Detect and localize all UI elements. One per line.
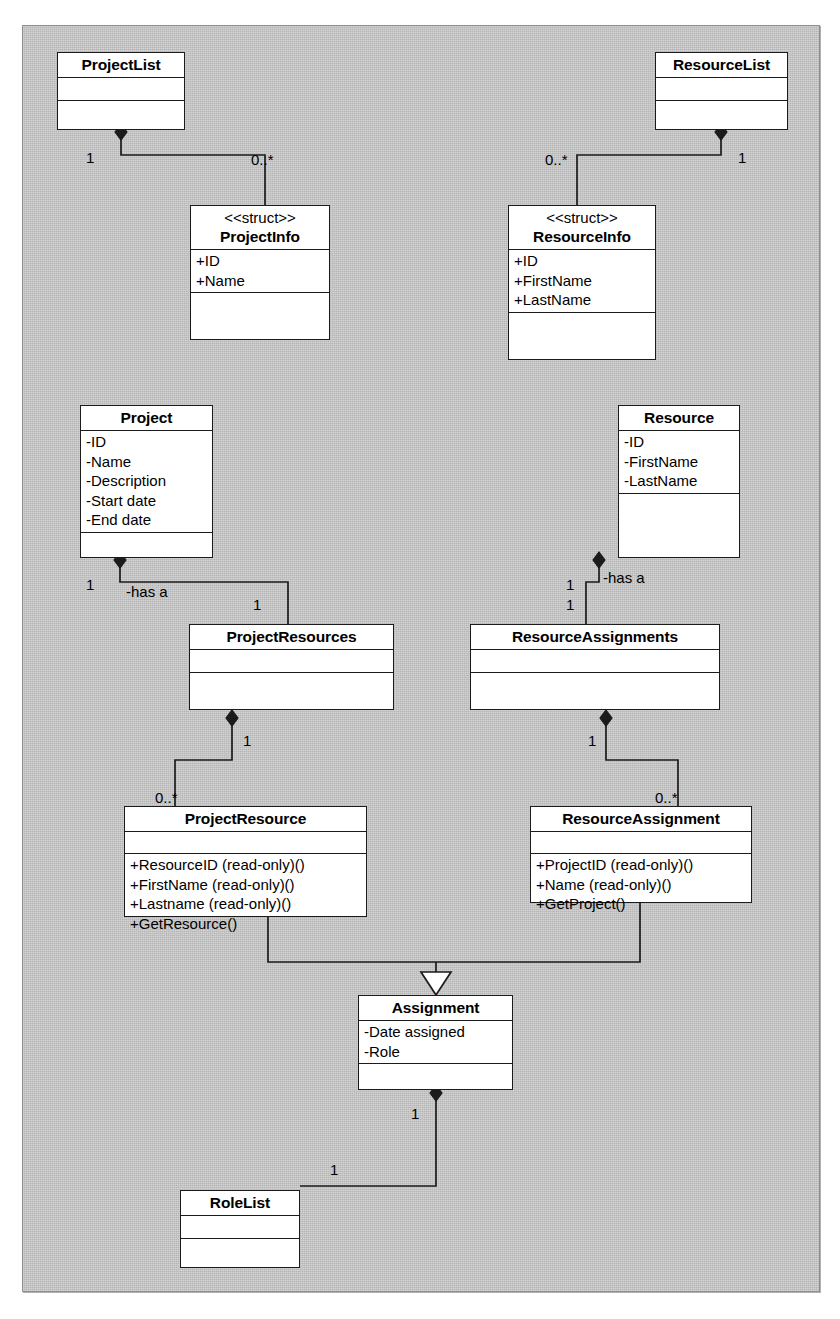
operation-row: +GetResource() [130, 914, 361, 934]
multiplicity-resource: 1 [566, 577, 574, 592]
multiplicity-assignment: 1 [411, 1106, 419, 1121]
multiplicity-projectresources-top: 1 [253, 597, 261, 612]
class-box-project-resource[interactable]: ProjectResource +ResourceID (read-only)(… [124, 806, 367, 917]
attribute-row: +Name [196, 271, 324, 291]
class-title-resource-assignment: ResourceAssignment [531, 807, 751, 832]
attribute-row: +ID [514, 251, 650, 271]
class-header-resource-info: <<struct>> ResourceInfo [509, 206, 655, 250]
class-attributes-resource: -ID -FirstName -LastName [619, 431, 739, 494]
multiplicity-projectresources-bot: 1 [243, 733, 251, 748]
class-attributes-resource-info: +ID +FirstName +LastName [509, 250, 655, 313]
class-attributes-resource-assignment [531, 832, 751, 854]
class-box-project-info[interactable]: <<struct>> ProjectInfo +ID +Name [190, 205, 330, 340]
class-operations-resource-info [509, 313, 655, 339]
class-box-assignment[interactable]: Assignment -Date assigned -Role [358, 995, 513, 1090]
class-title-resource-info: ResourceInfo [509, 227, 655, 249]
multiplicity-resourceassignments-bot: 1 [588, 733, 596, 748]
class-operations-project-list [58, 101, 184, 127]
class-attributes-project-info: +ID +Name [191, 250, 329, 293]
class-operations-resource-assignment: +ProjectID (read-only)() +Name (read-onl… [531, 854, 751, 916]
class-title-project-list: ProjectList [58, 53, 184, 78]
wire-projectlist-projectinfo [121, 130, 265, 205]
class-title-resource: Resource [619, 406, 739, 431]
class-operations-project-info [191, 293, 329, 319]
operation-row: +ProjectID (read-only)() [536, 855, 746, 875]
attribute-row: +FirstName [514, 271, 650, 291]
diamond-projectresources [226, 710, 238, 726]
wire-resourcelist-resourceinfo [577, 130, 721, 205]
uml-diagram-canvas: ProjectList ResourceList <<struct>> Proj… [0, 0, 840, 1319]
class-stereotype-resource-info: <<struct>> [509, 206, 655, 227]
attribute-row: -LastName [624, 471, 734, 491]
class-attributes-assignment: -Date assigned -Role [359, 1021, 512, 1064]
class-box-resource-list[interactable]: ResourceList [655, 52, 788, 130]
multiplicity-resourceassignments-top: 1 [566, 597, 574, 612]
attribute-row: -ID [86, 432, 207, 452]
operation-row: +ResourceID (read-only)() [130, 855, 361, 875]
wire-projectresources-projectresource [175, 715, 232, 806]
multiplicity-resourceassignment: 0..* [655, 790, 678, 805]
association-label-resource-has-a: -has a [603, 570, 645, 585]
attribute-row: -FirstName [624, 452, 734, 472]
class-operations-assignment [359, 1064, 512, 1087]
class-title-project-resource: ProjectResource [125, 807, 366, 832]
class-title-project: Project [81, 406, 212, 431]
class-operations-resource [619, 494, 739, 520]
class-box-resource-assignment[interactable]: ResourceAssignment +ProjectID (read-only… [530, 806, 752, 903]
multiplicity-resourcelist: 1 [738, 150, 746, 165]
multiplicity-resourceinfo: 0..* [545, 152, 568, 167]
class-box-resource-info[interactable]: <<struct>> ResourceInfo +ID +FirstName +… [508, 205, 656, 360]
attribute-row: -Name [86, 452, 207, 472]
class-header-project-info: <<struct>> ProjectInfo [191, 206, 329, 250]
class-attributes-project-resources [190, 650, 393, 673]
attribute-row: -Description [86, 471, 207, 491]
generalization-triangle-assignment [421, 972, 451, 995]
wire-resource-resourceassignments [586, 558, 599, 624]
class-title-project-resources: ProjectResources [190, 625, 393, 650]
class-operations-project-resources [190, 673, 393, 699]
attribute-row: -Start date [86, 491, 207, 511]
class-title-role-list: RoleList [181, 1191, 299, 1216]
attribute-row: -End date [86, 510, 207, 530]
class-box-resource[interactable]: Resource -ID -FirstName -LastName [618, 405, 740, 558]
class-box-project[interactable]: Project -ID -Name -Description -Start da… [80, 405, 213, 558]
attribute-row: -ID [624, 432, 734, 452]
class-attributes-resource-list [656, 78, 787, 101]
class-operations-project-resource: +ResourceID (read-only)() +FirstName (re… [125, 854, 366, 935]
class-attributes-project-list [58, 78, 184, 101]
attribute-row: +ID [196, 251, 324, 271]
attribute-row: +LastName [514, 290, 650, 310]
class-title-resource-assignments: ResourceAssignments [471, 625, 719, 650]
class-operations-project [81, 533, 212, 556]
class-box-project-list[interactable]: ProjectList [57, 52, 185, 130]
class-title-project-info: ProjectInfo [191, 227, 329, 249]
class-title-assignment: Assignment [359, 996, 512, 1021]
class-attributes-project-resource [125, 832, 366, 854]
attribute-row: -Date assigned [364, 1022, 507, 1042]
diamond-resourceassignments [600, 710, 612, 726]
class-box-role-list[interactable]: RoleList [180, 1190, 300, 1268]
operation-row: +GetProject() [536, 894, 746, 914]
class-attributes-role-list [181, 1216, 299, 1239]
multiplicity-projectlist: 1 [86, 150, 94, 165]
class-box-resource-assignments[interactable]: ResourceAssignments [470, 624, 720, 710]
class-box-project-resources[interactable]: ProjectResources [189, 624, 394, 710]
multiplicity-project: 1 [86, 577, 94, 592]
diamond-resource [593, 552, 605, 568]
operation-row: +Lastname (read-only)() [130, 894, 361, 914]
class-attributes-resource-assignments [471, 650, 719, 673]
multiplicity-rolelist: 1 [330, 1162, 338, 1177]
multiplicity-projectinfo: 0..* [251, 152, 274, 167]
operation-row: +FirstName (read-only)() [130, 875, 361, 895]
multiplicity-projectresource: 0..* [155, 790, 178, 805]
class-stereotype-project-info: <<struct>> [191, 206, 329, 227]
class-operations-resource-list [656, 101, 787, 127]
class-operations-resource-assignments [471, 673, 719, 699]
operation-row: +Name (read-only)() [536, 875, 746, 895]
class-operations-role-list [181, 1239, 299, 1265]
attribute-row: -Role [364, 1042, 507, 1062]
association-label-project-has-a: -has a [126, 584, 168, 599]
class-title-resource-list: ResourceList [656, 53, 787, 78]
class-attributes-project: -ID -Name -Description -Start date -End … [81, 431, 212, 533]
